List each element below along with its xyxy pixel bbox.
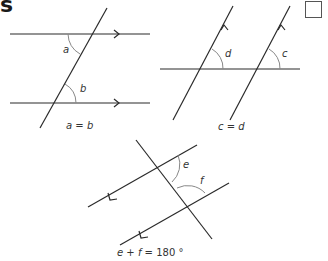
parallel-line-right (230, 6, 290, 120)
parallel-line-lower (120, 183, 229, 245)
angle-label-d: d (225, 48, 232, 59)
angle-arc-a (68, 34, 80, 54)
caption-a-equals-b: a = b (66, 120, 93, 131)
caption-e-plus-f-180: e + f = 180 ° (117, 247, 183, 258)
parallel-arrow-icon (108, 193, 117, 200)
angle-arc-b (65, 84, 76, 103)
caption-c-equals-d: c = d (218, 121, 245, 132)
angle-label-c: c (282, 48, 288, 59)
diagram-co-interior-angles (88, 140, 229, 245)
angle-diagrams: a b a = b d c c = d e f e + f = 180 ° (0, 0, 328, 261)
angle-arc-c (269, 49, 280, 69)
transversal-line (40, 8, 107, 128)
angle-label-f: f (200, 175, 205, 186)
angle-label-b: b (80, 83, 86, 94)
angle-arc-d (212, 49, 223, 69)
diagram-corresponding-angles-2 (160, 6, 300, 120)
angle-label-a: a (63, 44, 69, 55)
diagram-corresponding-angles (10, 8, 150, 128)
angle-label-e: e (183, 159, 189, 170)
angle-arc-f (177, 186, 205, 193)
parallel-line-left (173, 6, 233, 120)
